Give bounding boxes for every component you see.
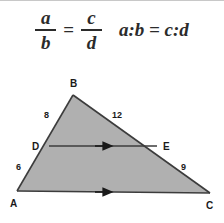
length-label-be: 12	[112, 110, 122, 120]
fraction-c-over-d: c d	[81, 8, 102, 52]
vertex-label-c: C	[206, 200, 213, 211]
point-label-d: D	[32, 141, 39, 152]
fraction-left-bar	[35, 29, 56, 31]
triangle-svg: A B C D E 8 12 6 9	[0, 55, 224, 223]
proportion-formula: a b = c d a:b = c:d	[0, 5, 224, 55]
fraction-left-denominator: b	[38, 33, 54, 52]
length-label-da: 6	[16, 162, 21, 172]
ratio-expression: a:b = c:d	[119, 19, 189, 41]
vertex-label-a: A	[10, 198, 17, 209]
triangle-diagram: A B C D E 8 12 6 9	[0, 55, 224, 223]
figure-page: a b = c d a:b = c:d	[0, 0, 224, 223]
equals-sign: =	[63, 19, 74, 41]
point-label-e: E	[163, 141, 170, 152]
fraction-right-numerator: c	[84, 8, 98, 27]
fraction-left-numerator: a	[38, 8, 54, 27]
vertex-label-b: B	[70, 78, 77, 89]
fraction-a-over-b: a b	[35, 8, 56, 52]
length-label-bd: 8	[44, 110, 49, 120]
length-label-ec: 9	[181, 162, 186, 172]
fraction-right-bar	[81, 29, 102, 31]
fraction-right-denominator: d	[84, 33, 100, 52]
